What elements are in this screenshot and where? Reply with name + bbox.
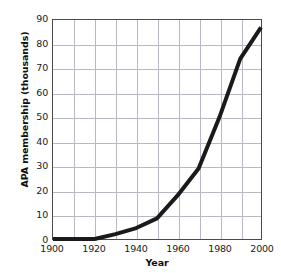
y-axis-tick-label: 50 <box>22 112 48 122</box>
y-axis-tick-label: 10 <box>22 210 48 220</box>
plot-area <box>52 19 262 240</box>
y-axis-tick-label: 90 <box>22 14 48 24</box>
y-axis-tick-label: 30 <box>22 161 48 171</box>
y-axis-tick-label: 80 <box>22 39 48 49</box>
x-axis-tick-labels: 190019201940196019802000 <box>52 243 262 257</box>
x-axis-tick-label: 1920 <box>74 243 114 254</box>
x-axis-title: Year <box>52 257 262 268</box>
x-axis-tick-label: 1900 <box>32 243 72 254</box>
y-axis-tick-label: 20 <box>22 186 48 196</box>
y-axis-tick-labels: 0102030405060708090 <box>20 19 48 240</box>
y-axis-tick-label: 40 <box>22 137 48 147</box>
chart-figure: APA membership (thousands) 0102030405060… <box>0 0 281 273</box>
x-axis-tick-label: 1980 <box>200 243 240 254</box>
x-axis-tick-label: 1940 <box>116 243 156 254</box>
x-axis-tick-label: 2000 <box>242 243 281 254</box>
y-axis-tick-label: 70 <box>22 63 48 73</box>
data-series-line <box>53 20 261 239</box>
x-axis-tick-label: 1960 <box>158 243 198 254</box>
y-axis-tick-label: 60 <box>22 88 48 98</box>
